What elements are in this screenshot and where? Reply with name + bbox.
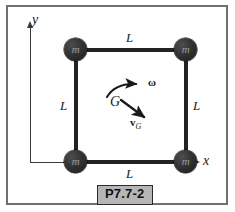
center-of-mass-label: G xyxy=(110,95,120,109)
length-label-bottom: L xyxy=(126,167,133,180)
problem-id-plate: P7.7-2 xyxy=(97,185,153,205)
mass-label: m xyxy=(182,156,190,167)
y-axis-line xyxy=(30,27,31,163)
rod-left xyxy=(74,50,78,162)
mass-label: m xyxy=(182,44,190,55)
figure-canvas: y x L L L L m m m m xyxy=(0,0,235,212)
figure-frame: y x L L L L m m m m xyxy=(6,5,228,205)
velocity-label: vG xyxy=(130,117,141,131)
length-label-right: L xyxy=(193,99,200,112)
mass-bottom-left: m xyxy=(64,150,87,173)
mass-top-left: m xyxy=(64,38,87,61)
mass-label: m xyxy=(72,156,80,167)
rod-top xyxy=(76,48,186,52)
center-of-mass-group: G ω vG xyxy=(104,75,166,131)
rod-right xyxy=(184,50,188,162)
length-label-left: L xyxy=(60,99,67,112)
y-axis-label: y xyxy=(32,13,38,27)
angular-velocity-label: ω xyxy=(148,77,156,88)
mass-top-right: m xyxy=(174,38,197,61)
x-axis-label: x xyxy=(203,154,209,168)
mass-label: m xyxy=(72,44,80,55)
length-label-top: L xyxy=(126,31,133,44)
mass-bottom-right: m xyxy=(174,150,197,173)
velocity-subscript: G xyxy=(136,122,142,131)
rod-bottom xyxy=(76,160,186,164)
